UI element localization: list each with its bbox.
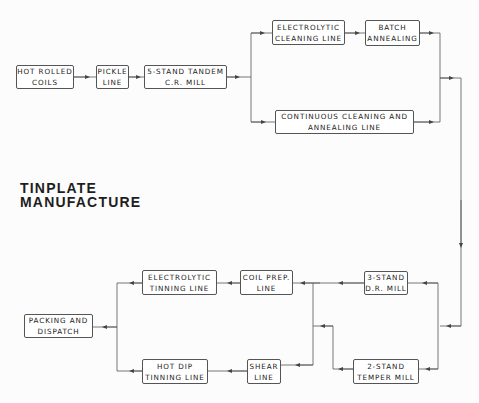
node-label: ANNEALING	[367, 33, 417, 44]
node-label: DISPATCH	[37, 326, 79, 337]
node-label: PICKLE	[97, 66, 127, 77]
node-label: LINE	[103, 77, 123, 88]
node-label: 3-STAND	[367, 272, 405, 283]
title-line-1: TINPLATE	[20, 181, 141, 195]
node-label: HOT DIP	[157, 361, 193, 372]
node-label: LINE	[254, 372, 274, 383]
node-electrolytic-cleaning: ELECTROLYTIC CLEANING LINE	[272, 20, 345, 45]
node-hot-dip-tinning: HOT DIP TINNING LINE	[142, 359, 208, 384]
diagram-title: TINPLATE MANUFACTURE	[20, 181, 141, 209]
node-packing-dispatch: PACKING AND DISPATCH	[24, 314, 93, 338]
node-label: TEMPER MILL	[357, 372, 415, 383]
node-hot-rolled-coils: HOT ROLLED COILS	[16, 65, 74, 89]
node-label: ELECTROLYTIC	[148, 272, 211, 283]
node-label: D.R. MILL	[365, 283, 407, 294]
node-label: COIL PREP.	[243, 272, 290, 283]
node-label: HOT ROLLED	[17, 66, 72, 77]
node-label: PACKING AND	[29, 315, 88, 326]
node-dr-mill: 3-STAND D.R. MILL	[364, 271, 408, 295]
node-pickle-line: PICKLE LINE	[96, 65, 129, 89]
tinplate-flow-diagram: TINPLATE MANUFACTURE HOT ROLLED COILS PI…	[0, 0, 479, 403]
node-label: TINNING LINE	[150, 283, 209, 294]
title-line-2: MANUFACTURE	[20, 195, 141, 209]
node-label: 5-STAND TANDEM	[147, 66, 224, 77]
node-label: SHEAR	[250, 361, 279, 372]
node-label: BATCH	[378, 22, 406, 33]
node-label: CLEANING LINE	[275, 33, 342, 44]
node-shear-line: SHEAR LINE	[247, 359, 281, 384]
node-temper-mill: 2-STAND TEMPER MILL	[353, 359, 419, 384]
node-label: ELECTROLYTIC	[277, 22, 340, 33]
node-label: TINNING LINE	[145, 372, 204, 383]
node-label: 2-STAND	[367, 361, 405, 372]
node-batch-annealing: BATCH ANNEALING	[365, 20, 420, 46]
node-label: C.R. MILL	[165, 77, 206, 88]
node-continuous-cleaning: CONTINUOUS CLEANING AND ANNEALING LINE	[275, 110, 414, 134]
node-label: COILS	[32, 77, 58, 88]
node-label: CONTINUOUS CLEANING AND	[281, 111, 408, 122]
node-tandem-mill: 5-STAND TANDEM C.R. MILL	[144, 65, 227, 89]
node-electrolytic-tinning: ELECTROLYTIC TINNING LINE	[142, 270, 217, 295]
node-coil-prep: COIL PREP. LINE	[240, 270, 293, 295]
node-label: ANNEALING LINE	[308, 122, 381, 133]
node-label: LINE	[257, 283, 277, 294]
